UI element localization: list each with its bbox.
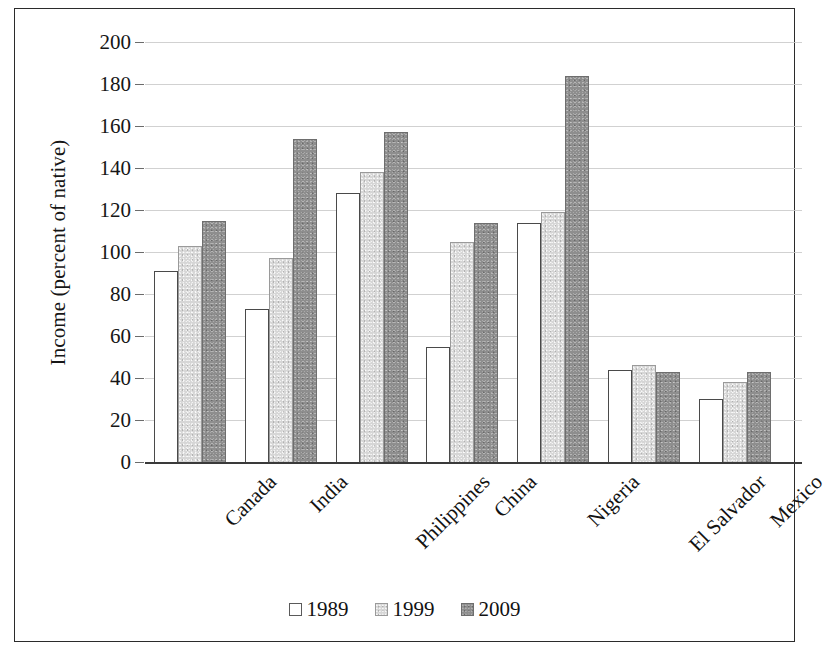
bar-canada-2009 bbox=[202, 221, 226, 463]
x-axis-label-mexico: Mexico bbox=[765, 470, 827, 533]
chart-legend: 198919992009 bbox=[15, 597, 794, 622]
legend-label: 1999 bbox=[393, 597, 435, 622]
bar-canada-1999 bbox=[178, 246, 202, 462]
y-axis-tick-mark bbox=[135, 378, 144, 379]
legend-item-1989: 1989 bbox=[289, 597, 349, 622]
y-axis-tick-mark bbox=[135, 126, 144, 127]
bar-china-1999 bbox=[450, 242, 474, 463]
y-axis-tick-label: 160 bbox=[100, 116, 132, 137]
y-axis-tick-label: 140 bbox=[100, 158, 132, 179]
bar-nigeria-1999 bbox=[541, 212, 565, 462]
legend-label: 2009 bbox=[479, 597, 521, 622]
bar-el-salvador-2009 bbox=[656, 372, 680, 462]
bar-el-salvador-1989 bbox=[608, 370, 632, 462]
bar-group bbox=[689, 42, 780, 462]
legend-item-2009: 2009 bbox=[461, 597, 521, 622]
bar-group bbox=[599, 42, 690, 462]
y-axis-tick-mark bbox=[135, 462, 144, 463]
y-axis-tick-label: 200 bbox=[100, 32, 132, 53]
y-axis-tick-label: 180 bbox=[100, 74, 132, 95]
y-axis-tick-mark bbox=[135, 420, 144, 421]
bar-group bbox=[145, 42, 236, 462]
bar-india-2009 bbox=[293, 139, 317, 462]
legend-label: 1989 bbox=[307, 597, 349, 622]
bar-india-1999 bbox=[269, 258, 293, 462]
y-axis-tick-mark bbox=[135, 210, 144, 211]
x-axis-category-labels: CanadaIndiaPhilippinesChinaNigeriaEl Sal… bbox=[145, 464, 780, 574]
y-axis-title: Income (percent of native) bbox=[45, 42, 73, 462]
y-axis-title-text: Income (percent of native) bbox=[47, 139, 72, 365]
x-axis-label-china: China bbox=[488, 470, 541, 523]
white-square-swatch bbox=[289, 603, 302, 616]
y-axis-tick-mark bbox=[135, 84, 144, 85]
y-axis-tick-label: 20 bbox=[110, 410, 131, 431]
bar-mexico-2009 bbox=[747, 372, 771, 462]
y-axis-tick-label: 60 bbox=[110, 326, 131, 347]
y-axis-tick-mark bbox=[135, 336, 144, 337]
bar-philippines-2009 bbox=[384, 132, 408, 462]
y-axis-tick-label: 0 bbox=[121, 452, 132, 473]
bar-group bbox=[508, 42, 599, 462]
y-axis-tick-mark bbox=[135, 42, 144, 43]
y-axis-tick-label: 40 bbox=[110, 368, 131, 389]
y-axis-tick-mark bbox=[135, 252, 144, 253]
y-axis-tick-mark bbox=[135, 294, 144, 295]
x-axis-label-philippines: Philippines bbox=[411, 470, 496, 555]
x-axis-label-india: India bbox=[305, 470, 353, 518]
dark-gray-square-swatch bbox=[461, 603, 474, 616]
bar-group bbox=[236, 42, 327, 462]
bar-el-salvador-1999 bbox=[632, 365, 656, 462]
bar-nigeria-2009 bbox=[565, 76, 589, 462]
bar-canada-1989 bbox=[154, 271, 178, 462]
bar-group bbox=[417, 42, 508, 462]
x-axis-label-nigeria: Nigeria bbox=[583, 470, 645, 532]
bar-mexico-1999 bbox=[723, 382, 747, 462]
bar-groups bbox=[145, 42, 780, 462]
y-axis-tick-mark bbox=[135, 168, 144, 169]
y-axis-tick-label: 80 bbox=[110, 284, 131, 305]
y-axis-tick-label: 120 bbox=[100, 200, 132, 221]
x-axis-label-canada: Canada bbox=[220, 470, 282, 532]
plot-area: 200180160140120100806040200 bbox=[145, 42, 780, 462]
bar-mexico-1989 bbox=[699, 399, 723, 462]
figure-border: Income (percent of native) 2001801601401… bbox=[14, 8, 795, 642]
light-gray-square-swatch bbox=[375, 603, 388, 616]
bar-china-2009 bbox=[474, 223, 498, 462]
x-axis-label-el-salvador: El Salvador bbox=[684, 470, 771, 557]
bar-nigeria-1989 bbox=[517, 223, 541, 462]
bar-philippines-1989 bbox=[336, 193, 360, 462]
y-axis-tick-label: 100 bbox=[100, 242, 132, 263]
bar-philippines-1999 bbox=[360, 172, 384, 462]
bar-india-1989 bbox=[245, 309, 269, 462]
legend-item-1999: 1999 bbox=[375, 597, 435, 622]
bar-group bbox=[326, 42, 417, 462]
bar-china-1989 bbox=[426, 347, 450, 463]
